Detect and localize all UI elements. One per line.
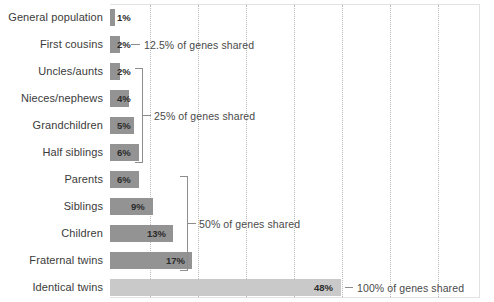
annotation-25-percent: 25% of genes shared xyxy=(154,110,255,122)
bar-row: Parents 6% xyxy=(0,166,494,193)
bar-value-label: 13% xyxy=(147,225,166,242)
bar-value-label: 2% xyxy=(117,63,131,80)
bar-value-label: 1% xyxy=(117,9,131,26)
category-label: Identical twins xyxy=(0,274,103,301)
bracket-25-percent xyxy=(135,68,143,163)
category-label: Uncles/aunts xyxy=(0,58,103,85)
bar-row: First cousins 2% 12.5% of genes shared xyxy=(0,31,494,58)
category-label: Children xyxy=(0,220,103,247)
annotation-dash-100 xyxy=(345,287,353,288)
annotation-100-percent: 100% of genes shared xyxy=(357,282,464,294)
bar-value-label: 6% xyxy=(117,171,131,188)
bar-row: Identical twins 48% 100% of genes shared xyxy=(0,274,494,301)
bar-value-label: 4% xyxy=(117,90,131,107)
bar-row: General population 1% xyxy=(0,4,494,31)
bar-row: Nieces/nephews 4% xyxy=(0,85,494,112)
bar-row: Half siblings 6% xyxy=(0,139,494,166)
bar-row: Siblings 9% xyxy=(0,193,494,220)
horizontal-bar-chart: General population 1% First cousins 2% 1… xyxy=(0,0,494,302)
category-label: Nieces/nephews xyxy=(0,85,103,112)
category-label: Parents xyxy=(0,166,103,193)
annotation-dash-12-5 xyxy=(131,44,140,45)
bar-value-label: 5% xyxy=(117,117,131,134)
bracket-50-percent xyxy=(180,176,188,271)
category-label: Grandchildren xyxy=(0,112,103,139)
bar-row: Uncles/aunts 2% xyxy=(0,58,494,85)
annotation-12-5-percent: 12.5% of genes shared xyxy=(144,39,254,51)
bracket-stem-25-percent xyxy=(143,115,151,116)
annotation-50-percent: 50% of genes shared xyxy=(199,218,300,230)
category-label: Fraternal twins xyxy=(0,247,103,274)
category-label: Half siblings xyxy=(0,139,103,166)
bar-identical-twins xyxy=(110,279,341,296)
bar-value-label: 2% xyxy=(117,36,131,53)
category-label: First cousins xyxy=(0,31,103,58)
bar-value-label: 48% xyxy=(314,279,333,296)
bar-row: Fraternal twins 17% xyxy=(0,247,494,274)
bar-value-label: 9% xyxy=(131,198,145,215)
category-label: General population xyxy=(0,4,103,31)
category-label: Siblings xyxy=(0,193,103,220)
bracket-stem-50-percent xyxy=(188,223,196,224)
bar-value-label: 6% xyxy=(117,144,131,161)
bar-general-population xyxy=(110,9,115,26)
